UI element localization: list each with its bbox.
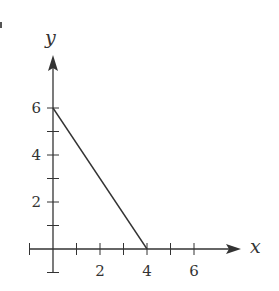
line-segment [53, 108, 147, 249]
y-axis-label: y [44, 26, 56, 48]
y-tick-label: 4 [31, 146, 41, 164]
axis-ticks [30, 108, 195, 273]
x-tick-label: 4 [142, 262, 152, 280]
tick-labels: 246246 [31, 99, 198, 280]
y-tick-label: 2 [31, 193, 41, 211]
x-tick-label: 6 [189, 262, 199, 280]
plot-area: 246246 x y [0, 0, 279, 291]
data-series [53, 108, 147, 249]
x-tick-label: 2 [95, 262, 105, 280]
y-tick-label: 6 [31, 99, 41, 117]
x-axis-label: x [250, 235, 261, 257]
axes [30, 55, 242, 273]
